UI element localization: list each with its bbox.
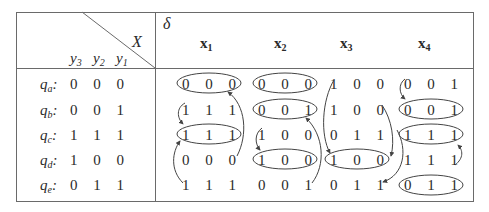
stable-state-ellipse-x2-b [253, 99, 317, 119]
stable-state-ellipse-x1-a [177, 73, 241, 93]
stable-state-ellipse-x2-a [253, 73, 317, 93]
arrow-x1-b-to-c [178, 103, 185, 124]
transition-annotations [0, 0, 489, 212]
arrow-x4-d-to-c [455, 145, 462, 165]
arrow-x3-a-to-d [324, 80, 334, 153]
stable-state-ellipse-x4-e [399, 175, 463, 195]
stable-state-ellipse-x2-d [253, 149, 317, 169]
arrow-x1-d-to-a [228, 92, 244, 156]
arrow-x1-e-to-c [174, 141, 183, 183]
arrow-x4-a-to-b [400, 79, 405, 99]
stable-state-ellipse-x4-b [399, 99, 463, 119]
stable-state-ellipse-x3-d [325, 149, 389, 169]
stable-state-ellipse-x4-c [399, 124, 463, 144]
arrow-x3-b-to-d [382, 105, 393, 156]
arrow-x2-e-to-b [306, 118, 321, 183]
stable-state-ellipse-x1-c [177, 124, 241, 144]
arrow-x2-c-to-d [256, 128, 262, 150]
